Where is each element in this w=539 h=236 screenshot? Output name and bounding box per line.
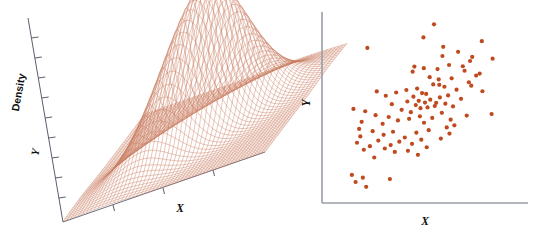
scatter-point: [355, 141, 359, 145]
scatter-point: [474, 74, 478, 78]
scatter-point: [443, 102, 447, 106]
scatter-point: [470, 55, 474, 59]
scatter-point: [360, 120, 364, 124]
scatter-point: [412, 65, 416, 69]
scatter-point: [390, 102, 394, 106]
scatter-point: [358, 134, 362, 138]
scatter-point: [357, 127, 361, 131]
scatter-point: [405, 99, 409, 103]
scatter-point: [384, 94, 388, 98]
x-axis-label-left: X: [175, 202, 184, 214]
scatter-point: [381, 122, 385, 126]
scatter-point: [449, 118, 453, 122]
scatter-point: [450, 76, 454, 80]
scatter-point: [368, 144, 372, 148]
scatter-point: [415, 86, 419, 90]
scatter-point: [428, 98, 432, 102]
scatter-point: [382, 133, 386, 137]
scatter-point: [409, 110, 413, 114]
scatter-point: [371, 129, 375, 133]
scatter-point: [383, 146, 387, 150]
scatter-point: [467, 80, 471, 84]
figure-background: [0, 0, 539, 236]
scatter-point: [462, 69, 466, 73]
scatter-point: [447, 63, 451, 67]
scatter-point: [364, 185, 368, 189]
scatter-point: [451, 104, 455, 108]
x-axis-label-right: X: [420, 215, 429, 227]
scatter-point: [414, 103, 418, 107]
scatter-point: [432, 22, 436, 26]
scatter-point: [421, 35, 425, 39]
scatter-point: [387, 115, 391, 119]
scatter-point: [365, 46, 369, 50]
scatter-point: [389, 143, 393, 147]
scatter-point: [445, 125, 449, 129]
scatter-point: [459, 97, 463, 101]
scatter-point: [422, 121, 426, 125]
scatter-point: [418, 106, 422, 110]
scatter-point: [424, 92, 428, 96]
scatter-point: [440, 54, 444, 58]
y-axis-label-right: Y: [300, 99, 312, 107]
scatter-point: [396, 118, 400, 122]
scatter-point: [447, 131, 451, 135]
scatter-point: [433, 104, 437, 108]
scatter-point: [427, 128, 431, 132]
scatter-point: [435, 67, 439, 71]
scatter-point: [410, 142, 414, 146]
scatter-point: [456, 50, 460, 54]
scatter-point: [393, 150, 397, 154]
scatter-point: [414, 131, 418, 135]
two-panel-figure: Density Y X Y X: [0, 0, 539, 236]
scatter-point: [419, 138, 423, 142]
scatter-point: [454, 88, 458, 92]
scatter-point: [465, 113, 469, 117]
scatter-point: [411, 95, 415, 99]
scatter-point: [491, 57, 495, 61]
scatter-point: [420, 91, 424, 95]
scatter-point: [425, 105, 429, 109]
scatter-point: [446, 93, 450, 97]
scatter-point: [391, 130, 395, 134]
scatter-point: [372, 155, 376, 159]
scatter-point: [438, 95, 442, 99]
scatter-point: [422, 66, 426, 70]
scatter-point: [397, 140, 401, 144]
scatter-point: [425, 145, 429, 149]
scatter-point: [373, 113, 377, 117]
scatter-point: [375, 89, 379, 93]
scatter-point: [411, 70, 415, 74]
scatter-point: [350, 173, 354, 177]
scatter-point: [480, 39, 484, 43]
scatter-point: [441, 45, 445, 49]
scatter-point: [423, 101, 427, 105]
scatter-point: [394, 90, 398, 94]
scatter-point: [469, 84, 473, 88]
scatter-point: [440, 111, 444, 115]
scatter-point: [439, 137, 443, 141]
scatter-point: [430, 116, 434, 120]
scatter-point: [490, 112, 494, 116]
scatter-point: [354, 180, 358, 184]
scatter-point: [431, 82, 435, 86]
scatter-point: [452, 123, 456, 127]
scatter-point: [442, 85, 446, 89]
scatter-point: [388, 177, 392, 181]
scatter-point: [406, 149, 410, 153]
scatter-point: [461, 64, 465, 68]
scatter-point: [478, 72, 482, 76]
scatter-point: [361, 176, 365, 180]
scatter-point: [376, 138, 380, 142]
scatter-point: [403, 135, 407, 139]
scatter-point: [362, 148, 366, 152]
scatter-point: [437, 77, 441, 81]
scatter-point: [407, 117, 411, 121]
scatter-point: [480, 89, 484, 93]
scatter-point: [416, 153, 420, 157]
scatter-point: [363, 109, 367, 113]
scatter-point: [428, 75, 432, 79]
scatter-point: [417, 99, 421, 103]
scatter-point: [351, 107, 355, 111]
scatter-point: [404, 88, 408, 92]
